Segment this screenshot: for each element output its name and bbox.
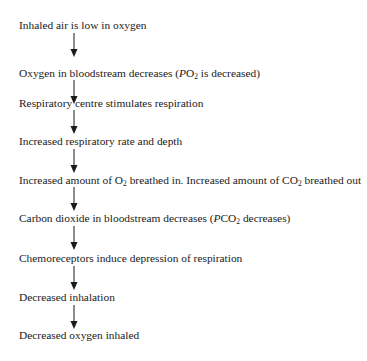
down-arrow-icon	[70, 305, 78, 329]
down-arrow-icon	[70, 187, 78, 211]
step-respiratory-centre-stimulates: Respiratory centre stimulates respiratio…	[19, 96, 203, 110]
down-arrow-icon	[70, 266, 78, 290]
down-arrow-icon	[70, 110, 78, 134]
step-text: Respiratory centre stimulates respiratio…	[19, 97, 203, 109]
step-text: Decreased inhalation	[19, 291, 115, 303]
step-text-post: decreases)	[240, 212, 290, 224]
step-text: Inhaled air is low in oxygen	[19, 19, 146, 31]
step-text-mid: breathed in. Increased amount of CO	[127, 174, 298, 186]
step-text-pre: Oxygen in bloodstream decreases (	[19, 67, 179, 79]
step-text-pre: Increased amount of O	[19, 174, 123, 186]
step-text: Chemoreceptors induce depression of resp…	[19, 252, 242, 264]
partial-pressure-symbol: P	[214, 212, 221, 224]
chemical-symbol: CO	[221, 212, 237, 224]
step-increased-o2-co2-exchange: Increased amount of O2 breathed in. Incr…	[19, 173, 361, 187]
step-increased-rate-depth: Increased respiratory rate and depth	[19, 134, 182, 148]
step-text-post: breathed out	[302, 174, 361, 186]
step-co2-bloodstream-decreases: Carbon dioxide in bloodstream decreases …	[19, 211, 290, 225]
down-arrow-icon	[70, 226, 78, 250]
step-text-pre: Carbon dioxide in bloodstream decreases …	[19, 212, 214, 224]
step-text: Increased respiratory rate and depth	[19, 135, 182, 147]
respiration-feedback-flowchart: Inhaled air is low in oxygen Oxygen in b…	[19, 0, 367, 361]
step-text: Decreased oxygen inhaled	[19, 329, 139, 341]
step-text-post: is decreased)	[198, 67, 260, 79]
down-arrow-icon	[70, 149, 78, 173]
step-inhaled-air-low-oxygen: Inhaled air is low in oxygen	[19, 18, 146, 32]
partial-pressure-symbol: P	[179, 67, 186, 79]
step-oxygen-bloodstream-decreases: Oxygen in bloodstream decreases (PO2 is …	[19, 66, 260, 80]
step-decreased-oxygen-inhaled: Decreased oxygen inhaled	[19, 328, 139, 342]
step-chemoreceptors-depression: Chemoreceptors induce depression of resp…	[19, 251, 242, 265]
down-arrow-icon	[70, 33, 78, 57]
step-decreased-inhalation: Decreased inhalation	[19, 290, 115, 304]
